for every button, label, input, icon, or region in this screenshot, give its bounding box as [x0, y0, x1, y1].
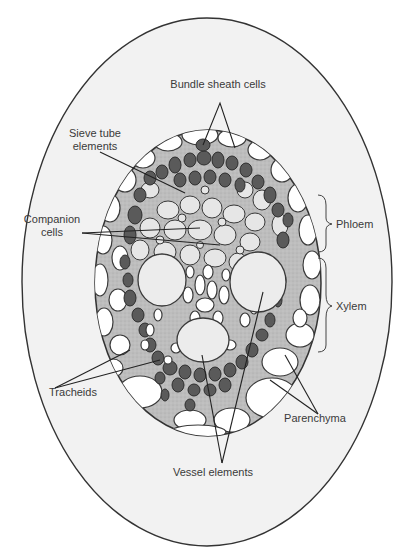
vascular-bundle-diagram: Bundle sheath cells Sieve tube elements …: [0, 0, 412, 560]
label-sieve-tube-line1: Sieve tube: [69, 127, 121, 139]
label-xylem: Xylem: [336, 300, 367, 312]
label-companion-line2: cells: [41, 226, 64, 238]
label-parenchyma: Parenchyma: [284, 412, 347, 424]
label-phloem: Phloem: [336, 218, 373, 230]
label-bundle-sheath-cells: Bundle sheath cells: [170, 78, 266, 90]
label-tracheids: Tracheids: [49, 386, 97, 398]
label-sieve-tube-line2: elements: [73, 140, 118, 152]
label-companion-line1: Companion: [24, 213, 80, 225]
label-vessel-elements: Vessel elements: [173, 466, 254, 478]
